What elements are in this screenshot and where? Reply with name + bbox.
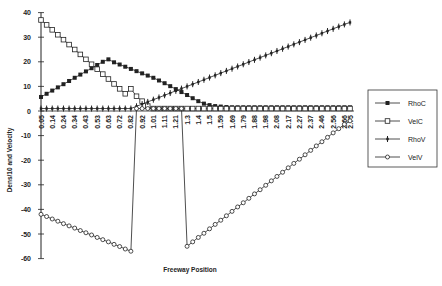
x-axis-title: Freeway Position <box>163 266 216 274</box>
x-tick-label: 1.88 <box>251 115 258 129</box>
x-tick-label: 2.56 <box>330 115 337 129</box>
legend-box <box>368 90 437 167</box>
x-tick-label: 2.17 <box>285 115 292 129</box>
y-tick-label: -50 <box>21 231 31 238</box>
x-tick-label: 2.27 <box>296 115 303 129</box>
x-tick-label: 0.82 <box>127 115 134 129</box>
x-tick-label: 1.5 <box>206 115 213 125</box>
y-tick-label: -10 <box>21 132 31 139</box>
x-tick-label: 1.01 <box>150 115 157 129</box>
x-tick-label: 2.37 <box>307 115 314 129</box>
x-tick-label: 0.05 <box>38 115 45 129</box>
y-tick-label: 10 <box>23 83 31 90</box>
y-axis: 403020100-10-20-30-40-50-60 <box>21 9 44 262</box>
x-tick-label: 0.63 <box>105 115 112 129</box>
x-tick-label: 1.4 <box>195 115 202 125</box>
x-tick-label: 0.34 <box>71 115 78 129</box>
x-tick-label: 0.72 <box>116 115 123 129</box>
y-tick-label: 30 <box>23 34 31 41</box>
legend: RhoCVelCRhoVVelV <box>368 90 437 167</box>
x-tick-label: 1.3 <box>184 115 191 125</box>
x-tick-label: 0.92 <box>139 115 146 129</box>
x-tick-label: 2.08 <box>273 115 280 129</box>
x-tick-label: 2.46 <box>318 115 325 129</box>
legend-label: RhoV <box>408 136 426 143</box>
x-tick-label: 0.43 <box>82 115 89 129</box>
x-tick-label: 1.59 <box>217 115 224 129</box>
y-tick-label: 20 <box>23 58 31 65</box>
y-tick-label: -60 <box>21 255 31 262</box>
series-velc <box>39 18 353 111</box>
x-tick-label: 0.24 <box>60 115 67 129</box>
x-tick-label: 0.53 <box>94 115 101 129</box>
x-tick-label: 1.69 <box>229 115 236 129</box>
legend-label: VelV <box>408 154 423 161</box>
x-tick-label: 1.98 <box>262 115 269 129</box>
y-tick-label: -30 <box>21 181 31 188</box>
plot-series <box>39 18 353 254</box>
x-tick-label: 1.11 <box>161 115 168 128</box>
line-chart: 403020100-10-20-30-40-50-60 0.050.140.24… <box>0 0 442 286</box>
y-tick-label: -40 <box>21 206 31 213</box>
y-axis-title: Dens/10 and Velocity <box>6 127 14 192</box>
y-tick-label: 40 <box>23 9 31 16</box>
y-tick-label: -20 <box>21 157 31 164</box>
y-tick-label: 0 <box>27 108 31 115</box>
legend-label: RhoC <box>408 100 426 107</box>
legend-label: VelC <box>408 118 423 125</box>
x-tick-label: 0.14 <box>49 115 56 129</box>
x-tick-label: 1.79 <box>240 115 247 129</box>
x-axis: 0.050.140.240.340.430.530.630.720.820.92… <box>38 111 355 129</box>
x-tick-label: 1.21 <box>172 115 179 129</box>
series-rhov <box>40 19 351 111</box>
